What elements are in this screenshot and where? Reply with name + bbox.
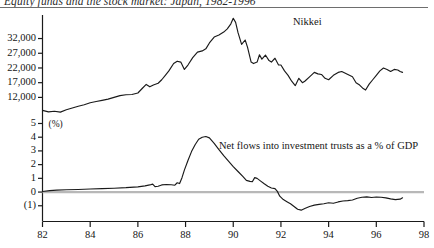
y-axis-nikkei-4-label: 12,000: [0, 91, 36, 102]
y-axis-flows-0-label: 5: [0, 117, 36, 128]
y-axis-nikkei-3-label: 17,000: [0, 76, 36, 87]
x-axis-label-94: 94: [317, 229, 341, 240]
y-axis-flows-3-label: 2: [0, 158, 36, 169]
x-axis-label-86: 86: [126, 229, 150, 240]
percent-unit-label: (%): [49, 119, 63, 129]
chart-axes: [43, 15, 425, 222]
y-axis-nikkei-1-label: 27,000: [0, 47, 36, 58]
x-axis-label-88: 88: [174, 229, 198, 240]
nikkei-series-line: [43, 18, 403, 112]
x-axis-ticks: [43, 222, 425, 228]
x-axis-label-92: 92: [269, 229, 293, 240]
net-flows-series-label: Net flows into investment trusts as a % …: [219, 140, 418, 151]
x-axis-label-82: 82: [31, 229, 55, 240]
x-axis-label-96: 96: [364, 229, 388, 240]
x-axis-label-84: 84: [78, 229, 102, 240]
y-axis-flows-4-label: 1: [0, 172, 36, 183]
y-axis-ticks: [38, 39, 43, 206]
y-axis-flows-5-label: 0: [0, 186, 36, 197]
y-axis-flows-2-label: 3: [0, 144, 36, 155]
y-axis-flows-1-label: 4: [0, 131, 36, 142]
y-axis-nikkei-0-label: 32,000: [0, 32, 36, 43]
y-axis-nikkei-2-label: 22,000: [0, 62, 36, 73]
x-axis-label-90: 90: [221, 229, 245, 240]
y-axis-flows-6-label: (1): [0, 199, 36, 210]
nikkei-series-label: Nikkei: [293, 16, 322, 27]
x-axis-label-98: 98: [412, 229, 434, 240]
